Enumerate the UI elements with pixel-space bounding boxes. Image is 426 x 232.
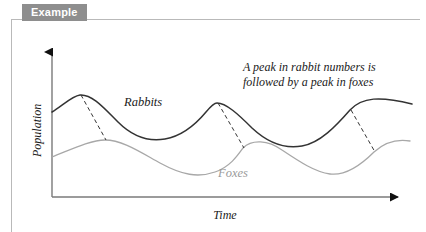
x-axis-label: Time	[213, 208, 237, 222]
y-axis-label: Population	[30, 104, 44, 158]
example-panel: Example Rabbits Foxes Population Time	[0, 0, 426, 232]
annotation-line-1: A peak in rabbit numbers is	[242, 60, 376, 74]
peak-link-1	[81, 95, 106, 140]
peak-link-3	[351, 110, 375, 152]
population-chart: Rabbits Foxes Population Time A peak in …	[0, 0, 426, 232]
series-label-rabbits: Rabbits	[123, 95, 162, 109]
series-label-foxes: Foxes	[217, 166, 248, 180]
annotation-line-2: followed by a peak in foxes	[243, 75, 374, 89]
